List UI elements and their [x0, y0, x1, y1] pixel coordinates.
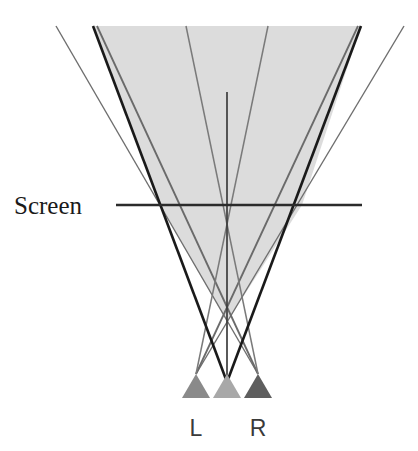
left-projector-label: L [190, 415, 203, 441]
right-projector-label: R [250, 415, 267, 441]
projector-left [182, 374, 210, 398]
projector-center [213, 374, 241, 398]
stereo-projection-diagram: Screen L R [0, 0, 418, 451]
projector-right [244, 374, 272, 398]
screen-label: Screen [14, 192, 83, 219]
